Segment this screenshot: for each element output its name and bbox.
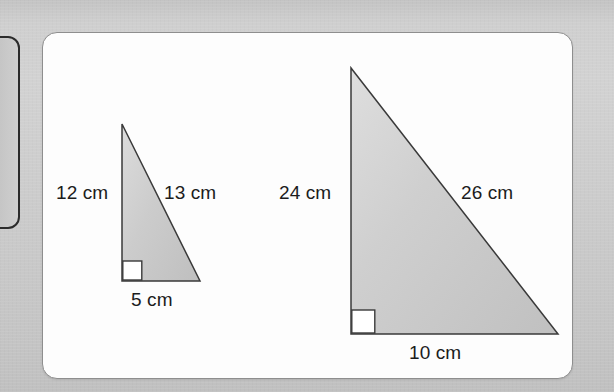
partial-rounded-box	[0, 36, 20, 229]
large-triangle-vertical-leg-label: 24 cm	[279, 183, 331, 202]
large-triangle-hypotenuse-label: 26 cm	[461, 183, 513, 202]
figure-card	[42, 32, 573, 379]
small-triangle-base-leg-label: 5 cm	[131, 290, 173, 309]
large-triangle-base-leg-label: 10 cm	[409, 343, 461, 362]
small-triangle-vertical-leg-label: 12 cm	[56, 183, 108, 202]
small-triangle-hypotenuse-label: 13 cm	[164, 183, 216, 202]
